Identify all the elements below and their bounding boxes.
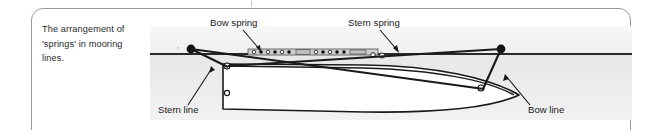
label-stern-line: Stern line <box>158 104 199 115</box>
label-bow-spring: Bow spring <box>210 17 257 28</box>
caption-line-3: lines. <box>42 51 147 66</box>
top-edge-tick-mark <box>251 0 252 7</box>
figure-page: The arrangement of 'springs' in mooring … <box>0 0 652 130</box>
caption-line-2: 'springs' in mooring <box>42 37 147 52</box>
fairlead-stern-lower <box>224 90 229 95</box>
label-bow-line: Bow line <box>528 104 564 115</box>
quay-area <box>150 26 632 54</box>
figure-caption: The arrangement of 'springs' in mooring … <box>42 22 147 66</box>
mooring-diagram: Bow spring Stern spring Stern line Bow l… <box>150 8 632 120</box>
quay-mark <box>177 47 179 49</box>
caption-line-1: The arrangement of <box>42 22 147 37</box>
label-stern-spring: Stern spring <box>348 17 400 28</box>
